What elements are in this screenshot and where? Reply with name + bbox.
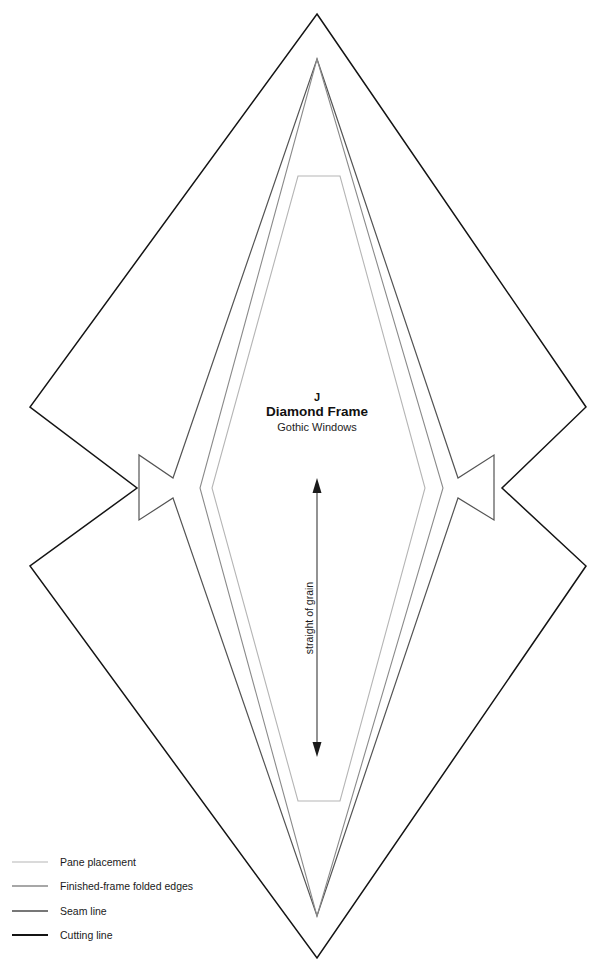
legend-label-pane: Pane placement [60, 856, 136, 868]
legend: Pane placementFinished-frame folded edge… [12, 856, 193, 941]
grain-label: straight of grain [303, 582, 315, 655]
grain-arrowhead-up-icon [313, 478, 322, 493]
piece-label-block: J Diamond Frame Gothic Windows [266, 391, 369, 433]
cutting-line-path [30, 14, 586, 958]
legend-label-seam: Seam line [60, 905, 107, 917]
piece-letter: J [314, 391, 320, 403]
piece-name: Diamond Frame [266, 404, 369, 419]
legend-label-folded: Finished-frame folded edges [60, 880, 193, 892]
grain-arrow: straight of grain [303, 478, 322, 757]
grain-arrowhead-down-icon [313, 742, 322, 757]
legend-label-cutting: Cutting line [60, 929, 113, 941]
folded-edges-path [200, 59, 443, 916]
pattern-diagram: J Diamond Frame Gothic Windows straight … [0, 0, 615, 977]
pattern-sheet: J Diamond Frame Gothic Windows straight … [0, 0, 615, 977]
piece-collection: Gothic Windows [277, 421, 357, 433]
